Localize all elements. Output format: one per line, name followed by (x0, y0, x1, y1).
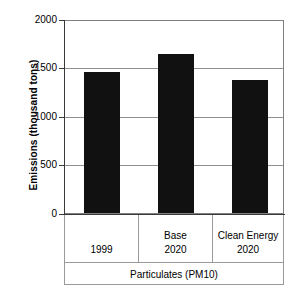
y-tick-label-500: 500 (11, 160, 57, 170)
y-tick-label-1000: 1000 (11, 112, 57, 122)
x-axis-title: Particulates (PM10) (130, 269, 218, 280)
y-tick-label-0: 0 (11, 209, 57, 219)
y-tick-label-1500: 1500 (11, 63, 57, 73)
x-category-cell-base-2020: Base 2020 (138, 215, 212, 262)
x-axis-category-row: 1999 Base 2020 Clean Energy 2020 (65, 215, 283, 262)
bar-clean-energy-2020[interactable] (232, 80, 268, 213)
bar-1999[interactable] (84, 72, 120, 213)
x-category-line2-clean-energy: 2020 (237, 243, 259, 257)
x-axis-label-table: 1999 Base 2020 Clean Energy 2020 Particu… (64, 215, 284, 285)
plot-area (64, 20, 284, 214)
x-category-cell-clean-energy-2020: Clean Energy 2020 (212, 215, 283, 262)
x-category-line1-base: Base (164, 229, 187, 243)
x-category-line2-1999: 1999 (90, 243, 112, 257)
x-axis-group-label: Particulates (PM10) (65, 262, 283, 285)
y-tick-label-2000: 2000 (11, 15, 57, 25)
bar-base-2020[interactable] (158, 54, 194, 213)
y-axis-line (64, 20, 65, 215)
x-category-line2-base: 2020 (164, 243, 186, 257)
x-category-cell-1999: 1999 (65, 215, 138, 262)
x-category-line1-clean-energy: Clean Energy (218, 229, 279, 243)
bar-chart-figure: Emissions (thousand tons) 2000 1500 1000… (0, 0, 295, 302)
